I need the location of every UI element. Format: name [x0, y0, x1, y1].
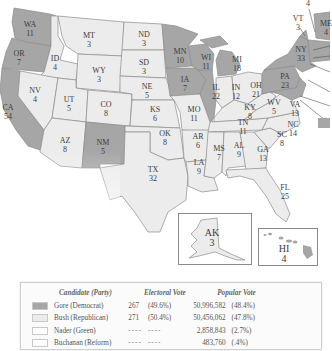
- legend-row-buchanan: Buchanan (Reform) ---- ---- 483,760 (.4%…: [29, 337, 259, 350]
- label-WV: WV5: [267, 99, 280, 116]
- label-PA: PA23: [280, 73, 290, 90]
- label-MS: MS7: [213, 145, 225, 162]
- label-KS: KS6: [150, 106, 160, 123]
- label-OK: OK8: [159, 130, 171, 147]
- electoral-pct: ----: [145, 325, 189, 338]
- candidate-name: Gore (Democrat): [51, 300, 125, 313]
- popular-vote: 2,858,843: [189, 325, 228, 338]
- electoral-vote: ----: [125, 325, 145, 338]
- hawaii-inset: HI4: [258, 228, 318, 266]
- electoral-vote: ----: [125, 337, 145, 350]
- candidate-name: Buchanan (Reform): [51, 337, 125, 350]
- label-NY: NY33: [295, 46, 307, 63]
- label-VA: VA13: [290, 101, 301, 118]
- label-ID: ID4: [51, 55, 59, 72]
- label-ND: ND3: [138, 31, 150, 48]
- label-CO: CO8: [100, 101, 111, 118]
- legend-header-row: Candidate (Party) Electoral Vote Popular…: [29, 287, 259, 300]
- swatch-nader: [32, 327, 48, 335]
- label-NM: NM5: [97, 139, 110, 156]
- popular-pct: (2.7%): [229, 325, 259, 338]
- label-WA: WA11: [24, 21, 36, 38]
- label-IL: IL22: [212, 84, 220, 101]
- label-VT: VT3: [293, 15, 304, 32]
- alaska-inset: AK3: [178, 213, 252, 265]
- label-SD: SD3: [139, 59, 149, 76]
- label-MN: MN10: [174, 48, 187, 65]
- label-ME: ME4: [320, 20, 332, 37]
- label-TN: TN11: [238, 119, 249, 136]
- popular-pct: (.4%): [229, 337, 259, 350]
- swatch-gore: [32, 302, 48, 310]
- label-FL: FL25: [280, 184, 289, 201]
- label-MI: MI18: [232, 56, 242, 73]
- label-GA: GA13: [257, 146, 269, 163]
- swatch-buchanan: [32, 339, 48, 347]
- header-electoral: Electoral Vote: [125, 287, 189, 300]
- label-WI: WI11: [201, 54, 211, 71]
- label-IN: IN12: [232, 84, 240, 101]
- electoral-pct: (50.4%): [145, 312, 189, 325]
- state-NE-small[interactable]: [308, 40, 330, 62]
- header-popular: Popular Vote: [189, 287, 259, 300]
- label-HI: HI4: [279, 244, 290, 264]
- label-UT: UT5: [64, 96, 75, 113]
- header-candidate: Candidate (Party): [51, 287, 125, 300]
- electoral-pct: ----: [145, 337, 189, 350]
- label-OR: OR7: [13, 50, 24, 67]
- label-MT: MT3: [83, 32, 95, 49]
- electoral-vote: 267: [125, 300, 145, 313]
- label-AL: AL9: [234, 142, 245, 159]
- label-NE: NE5: [142, 83, 153, 100]
- label-SC: SC8: [277, 131, 287, 148]
- popular-pct: (48.4%): [229, 300, 259, 313]
- popular-vote: 50,996,582: [189, 300, 228, 313]
- label-IA: IA7: [181, 76, 189, 93]
- legend: Candidate (Party) Electoral Vote Popular…: [20, 282, 322, 350]
- label-LA: LA9: [194, 159, 205, 176]
- label-WY: WY3: [92, 67, 105, 84]
- legend-table: Candidate (Party) Electoral Vote Popular…: [29, 287, 259, 350]
- legend-row-gore: Gore (Democrat) 267 (49.6%) 50,996,582 (…: [29, 300, 259, 313]
- label-NH: 4: [306, 0, 310, 8]
- candidate-name: Bush (Republican): [51, 312, 125, 325]
- swatch-bush: [32, 314, 48, 322]
- popular-vote: 50,456,062: [189, 312, 228, 325]
- label-AZ: AZ8: [60, 137, 71, 154]
- label-NC: NC14: [287, 121, 298, 138]
- legend-row-nader: Nader (Green) ---- ---- 2,858,843 (2.7%): [29, 325, 259, 338]
- popular-vote: 483,760: [189, 337, 228, 350]
- label-AK: AK3: [205, 228, 219, 248]
- electoral-vote: 271: [125, 312, 145, 325]
- candidate-name: Nader (Green): [51, 325, 125, 338]
- label-AR: AR6: [192, 133, 203, 150]
- dc-swatch: [318, 118, 330, 128]
- label-OH: OH21: [250, 82, 262, 99]
- electoral-pct: (49.6%): [145, 300, 189, 313]
- popular-pct: (47.8%): [229, 312, 259, 325]
- legend-row-bush: Bush (Republican) 271 (50.4%) 50,456,062…: [29, 312, 259, 325]
- label-MO: MO11: [188, 106, 201, 123]
- label-TX: TX32: [148, 166, 159, 183]
- label-NV: NV4: [29, 87, 41, 104]
- label-CA: CA54: [2, 104, 13, 121]
